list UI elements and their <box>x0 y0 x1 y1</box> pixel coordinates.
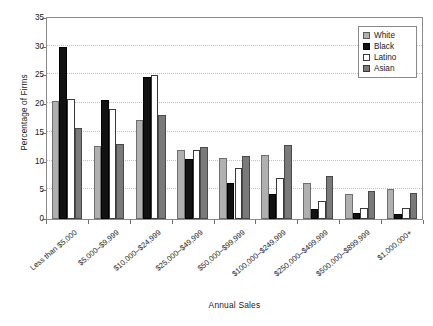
legend-swatch-icon <box>363 32 370 39</box>
legend-item-label: Asian <box>374 64 394 73</box>
x-axis-tick-mark <box>46 220 47 224</box>
bar-latino-1 <box>67 99 75 219</box>
bar-black-9 <box>394 214 402 219</box>
bar-black-8 <box>353 213 361 219</box>
y-axis-tick-label: 35 <box>4 14 44 22</box>
bar-white-2 <box>94 146 102 219</box>
bar-white-7 <box>303 183 311 219</box>
legend-item-white[interactable]: White <box>363 30 412 41</box>
legend-swatch-icon <box>363 65 370 72</box>
y-axis-title: Percentage of Firms <box>20 33 29 193</box>
legend-item-asian[interactable]: Asian <box>363 63 412 74</box>
bar-asian-2 <box>116 144 124 219</box>
bar-asian-7 <box>326 176 334 219</box>
bar-white-8 <box>345 194 353 219</box>
x-axis-tick-mark <box>381 220 382 224</box>
legend: WhiteBlackLatinoAsian <box>358 26 417 78</box>
bar-latino-9 <box>402 208 410 219</box>
bar-asian-9 <box>410 193 418 219</box>
y-axis-tick-label: 5 <box>4 186 44 194</box>
bar-white-3 <box>136 120 144 219</box>
bar-black-7 <box>311 209 319 219</box>
bar-asian-1 <box>75 128 83 219</box>
bar-latino-4 <box>193 150 201 219</box>
x-axis-tick-mark <box>339 220 340 224</box>
legend-item-label: Latino <box>374 53 396 62</box>
bar-white-4 <box>177 150 185 219</box>
bar-latino-5 <box>235 168 243 219</box>
legend-swatch-icon <box>363 43 370 50</box>
bar-chart: Percentage of Firms 05101520253035 Less … <box>0 0 433 326</box>
y-axis-tick-label: 0 <box>4 215 44 223</box>
y-axis-tick-label: 15 <box>4 129 44 137</box>
legend-item-label: White <box>374 31 395 40</box>
bar-white-5 <box>219 158 227 219</box>
bar-black-5 <box>227 183 235 219</box>
bar-white-9 <box>387 189 395 219</box>
bar-white-6 <box>261 155 269 219</box>
x-axis-tick-mark <box>297 220 298 224</box>
bar-black-4 <box>185 159 193 219</box>
bar-latino-8 <box>360 208 368 219</box>
bar-asian-8 <box>368 191 376 219</box>
legend-item-label: Black <box>374 42 394 51</box>
x-axis-title: Annual Sales <box>46 300 423 310</box>
legend-swatch-icon <box>363 54 370 61</box>
x-axis-category-label: $1,000,000+ <box>376 228 414 262</box>
legend-item-black[interactable]: Black <box>363 41 412 52</box>
bar-latino-3 <box>151 75 159 219</box>
bar-latino-7 <box>318 201 326 219</box>
x-axis-tick-mark <box>214 220 215 224</box>
x-axis-tick-mark <box>172 220 173 224</box>
x-axis-category-label: Less than $5,000 <box>28 228 78 272</box>
x-axis-category-label: $5,000–$9,999 <box>76 228 121 267</box>
legend-item-latino[interactable]: Latino <box>363 52 412 63</box>
bar-asian-6 <box>284 145 292 219</box>
bar-asian-4 <box>200 147 208 219</box>
x-axis-tick-mark <box>88 220 89 224</box>
bar-white-1 <box>52 101 60 219</box>
bar-latino-2 <box>109 109 117 219</box>
y-axis-tick-label: 20 <box>4 100 44 108</box>
x-axis-tick-mark <box>423 220 424 224</box>
y-axis-tick-label: 10 <box>4 158 44 166</box>
x-axis-tick-mark <box>130 220 131 224</box>
bar-asian-3 <box>158 115 166 219</box>
x-axis-tick-mark <box>255 220 256 224</box>
y-axis-tick-label: 30 <box>4 43 44 51</box>
bar-asian-5 <box>242 156 250 219</box>
bar-black-1 <box>59 47 67 219</box>
y-axis-tick-label: 25 <box>4 71 44 79</box>
bar-black-6 <box>269 194 277 219</box>
bar-black-3 <box>143 77 151 219</box>
bar-latino-6 <box>276 178 284 219</box>
bar-black-2 <box>101 100 109 219</box>
